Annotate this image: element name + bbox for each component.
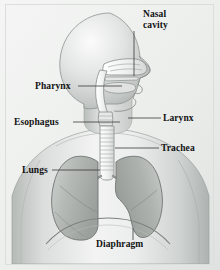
- label-trachea: Trachea: [161, 143, 195, 154]
- label-pharynx: Pharynx: [35, 81, 71, 92]
- larynx-structure: [98, 112, 112, 126]
- label-esophagus: Esophagus: [14, 117, 59, 128]
- label-nasal-cavity: Nasal cavity: [143, 9, 168, 30]
- hard-palate: [104, 77, 138, 81]
- label-larynx: Larynx: [163, 113, 194, 124]
- anatomy-illustration: [0, 0, 220, 270]
- respiratory-system-figure: Nasal cavity Pharynx Esophagus Larynx Tr…: [0, 0, 220, 270]
- label-lungs: Lungs: [22, 165, 48, 176]
- tongue: [103, 83, 136, 94]
- label-diaphragm: Diaphragm: [96, 239, 143, 250]
- trachea-structure: [100, 126, 114, 180]
